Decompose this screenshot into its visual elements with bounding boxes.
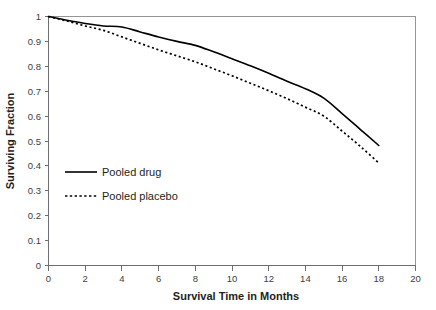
survival-chart: 0 0.1 0.2 0.3 0.4 0.5 0.6 0.7 0.8 0.9 1 … [0,0,436,310]
y-tick-label: 1 [36,11,41,22]
y-tick-label: 0.6 [28,111,41,122]
y-axis-ticks [45,17,49,266]
x-tick-label: 4 [119,273,124,284]
x-tick-label: 18 [374,273,385,284]
series-line-pooled-drug [49,17,379,146]
y-tick-label: 0.3 [28,185,41,196]
y-tick-label: 0.7 [28,86,41,97]
y-axis-title: Surviving Fraction [4,92,16,189]
y-tick-label: 0.2 [28,210,41,221]
y-tick-label: 0.5 [28,136,41,147]
y-tick-label: 0.9 [28,36,41,47]
x-axis-ticks [49,266,416,271]
plot-frame [49,17,416,266]
y-tick-labels: 0 0.1 0.2 0.3 0.4 0.5 0.6 0.7 0.8 0.9 1 [28,11,41,271]
y-tick-label: 0.1 [28,235,41,246]
x-tick-label: 0 [46,273,51,284]
legend-label-pooled-placebo: Pooled placebo [102,190,178,202]
chart-canvas: 0 0.1 0.2 0.3 0.4 0.5 0.6 0.7 0.8 0.9 1 … [0,0,436,310]
y-tick-label: 0.8 [28,61,41,72]
legend: Pooled drug Pooled placebo [65,166,178,202]
x-tick-label: 2 [83,273,88,284]
x-tick-label: 10 [227,273,238,284]
x-tick-label: 14 [300,273,311,284]
x-tick-label: 16 [337,273,348,284]
y-tick-label: 0.4 [28,160,41,171]
x-tick-label: 6 [156,273,161,284]
series-line-pooled-placebo [49,17,379,163]
x-axis-title: Survival Time in Months [173,290,299,302]
x-tick-labels: 0 2 4 6 8 10 12 14 16 18 20 [46,273,421,284]
x-tick-label: 20 [410,273,421,284]
x-tick-label: 12 [263,273,274,284]
x-tick-label: 8 [193,273,198,284]
y-tick-label: 0 [36,260,41,271]
legend-label-pooled-drug: Pooled drug [102,166,161,178]
